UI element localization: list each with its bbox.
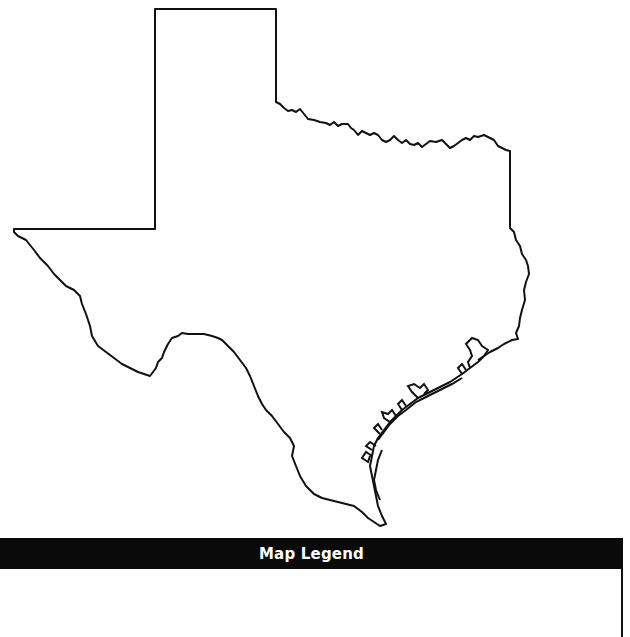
map-legend-body (0, 569, 623, 637)
legend-title: Map Legend (259, 545, 364, 563)
map-legend-header: Map Legend (0, 538, 623, 569)
texas-outline-map (0, 0, 630, 537)
texas-state-border (14, 9, 529, 526)
